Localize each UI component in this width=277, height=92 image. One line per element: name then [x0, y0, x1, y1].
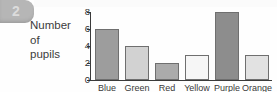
bar-yellow	[185, 55, 209, 81]
bar-series	[92, 12, 272, 80]
x-axis-line	[90, 80, 272, 81]
bar-purple	[215, 12, 239, 80]
x-label-orange: Orange	[242, 83, 272, 92]
y-tick-label: 6	[78, 24, 90, 34]
x-label-green: Green	[122, 83, 152, 92]
y-tick-label: 0	[78, 75, 90, 85]
question-number-label: 2	[0, 2, 32, 20]
bar-orange	[245, 55, 269, 81]
y-tick-label: 2	[78, 58, 90, 68]
bar-blue	[95, 29, 119, 80]
bar-red	[155, 63, 179, 80]
question-number-badge: 2	[0, 0, 34, 23]
x-label-yellow: Yellow	[182, 83, 212, 92]
x-label-purple: Purple	[212, 83, 242, 92]
y-tick-label: 4	[78, 41, 90, 51]
x-axis-labels: BlueGreenRedYellowPurpleOrange	[90, 83, 274, 92]
header-strip	[34, 0, 277, 7]
plot-area: 02468 BlueGreenRedYellowPurpleOrange	[76, 10, 273, 86]
x-label-blue: Blue	[92, 83, 122, 92]
bar-green	[125, 46, 149, 80]
y-tick-label: 8	[78, 7, 90, 17]
x-label-red: Red	[152, 83, 182, 92]
chart-screenshot: 2 Number of pupils 02468 BlueGreenRedYel…	[0, 0, 277, 92]
